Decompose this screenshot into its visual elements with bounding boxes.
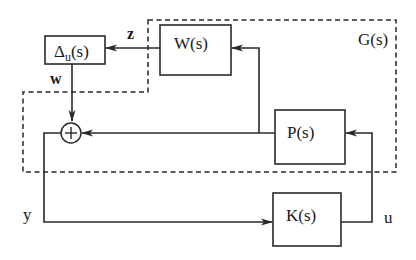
block-W-label: W(s) <box>174 34 208 53</box>
block-P-label: P(s) <box>287 123 314 142</box>
signal-w-label: w <box>50 70 62 87</box>
block-delta-label: Δu(s) <box>54 42 89 64</box>
signal-u-label: u <box>384 208 393 227</box>
signal-y-label: y <box>23 205 32 224</box>
region-label-G: G(s) <box>358 30 388 49</box>
block-K-label: K(s) <box>286 206 316 225</box>
signal-z-label: z <box>127 25 134 42</box>
signal-y-wire <box>44 133 272 222</box>
block-diagram: G(s) Δu(s) W(s) P(s) K(s) z w y u <box>0 0 416 260</box>
p-to-w-wire <box>232 48 259 133</box>
